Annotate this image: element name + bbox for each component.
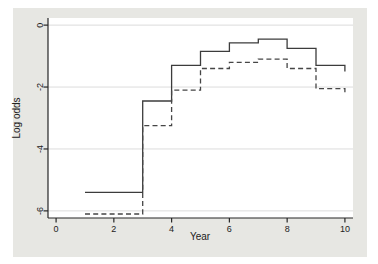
x-tick-label: 6 — [227, 224, 232, 234]
y-tick-label: -2 — [35, 83, 45, 91]
x-axis-title: Year — [190, 231, 211, 242]
y-tick-label: -4 — [35, 145, 45, 153]
x-tick-label: 2 — [111, 224, 116, 234]
y-tick-label: -6 — [35, 207, 45, 215]
x-tick-label: 0 — [54, 224, 59, 234]
figure: 0-2-4-60246810 Log odds Year — [0, 0, 378, 264]
y-tick-label: 0 — [35, 23, 45, 28]
y-axis-title: Log odds — [11, 97, 22, 138]
x-tick-label: 10 — [340, 224, 350, 234]
step-chart: 0-2-4-60246810 Log odds Year — [0, 0, 378, 264]
x-tick-label: 8 — [285, 224, 290, 234]
x-tick-label: 4 — [169, 224, 174, 234]
